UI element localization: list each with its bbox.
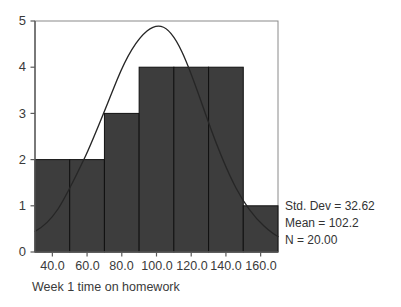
y-tick-label-5: 5 (10, 14, 26, 27)
y-tick-label-2: 2 (10, 153, 26, 166)
statistics-annotation: Std. Dev = 32.62 Mean = 102.2 N = 20.00 (285, 199, 375, 250)
x-tick-label-160: 160.0 (237, 260, 285, 273)
x-axis (35, 252, 278, 257)
bar (243, 206, 278, 252)
y-tick-label-3: 3 (10, 107, 26, 120)
bar (35, 160, 70, 252)
std-dev-label: Std. Dev = 32.62 (285, 199, 375, 213)
bar (209, 67, 244, 252)
bar (139, 67, 174, 252)
y-axis (31, 21, 36, 252)
y-tick-label-1: 1 (10, 199, 26, 212)
histogram-figure: 5 4 3 2 1 0 40.0 60.0 80.0 100.0 120.0 1… (0, 0, 401, 307)
mean-label: Mean = 102.2 (285, 216, 375, 230)
bar (104, 113, 139, 252)
bar (70, 160, 105, 252)
y-tick-label-0: 0 (10, 245, 26, 258)
bar (174, 67, 209, 252)
n-label: N = 20.00 (285, 233, 375, 247)
x-axis-title: Week 1 time on homework (32, 281, 180, 294)
y-tick-label-4: 4 (10, 60, 26, 73)
